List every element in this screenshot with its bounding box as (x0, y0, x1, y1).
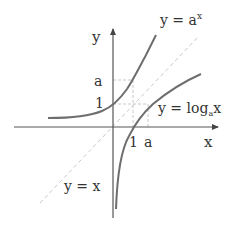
exponential-label: y = ax (159, 11, 202, 28)
x-tick-a: a (144, 134, 152, 150)
identity-label: y = x (63, 178, 101, 194)
function-graph: y x a 1 1 a y = ax y = logax y = x (0, 0, 229, 228)
y-tick-one: 1 (95, 95, 104, 111)
logarithm-label: y = logax (157, 100, 221, 118)
x-tick-one: 1 (129, 134, 138, 150)
y-tick-a: a (94, 73, 102, 89)
guide-lines (113, 80, 148, 127)
x-axis-label: x (204, 133, 213, 151)
y-axis-label: y (91, 28, 101, 46)
